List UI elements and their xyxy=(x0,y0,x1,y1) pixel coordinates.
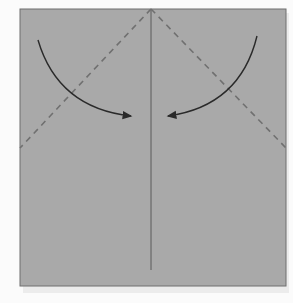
paper-square xyxy=(20,9,286,286)
origami-diagram xyxy=(0,0,293,303)
diagram-canvas xyxy=(0,0,293,303)
